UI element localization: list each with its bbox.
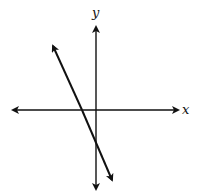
x-axis-label: x bbox=[182, 102, 190, 117]
coordinate-plane: x y bbox=[0, 0, 197, 191]
plotted-line bbox=[53, 46, 112, 180]
y-axis-label: y bbox=[91, 5, 100, 20]
